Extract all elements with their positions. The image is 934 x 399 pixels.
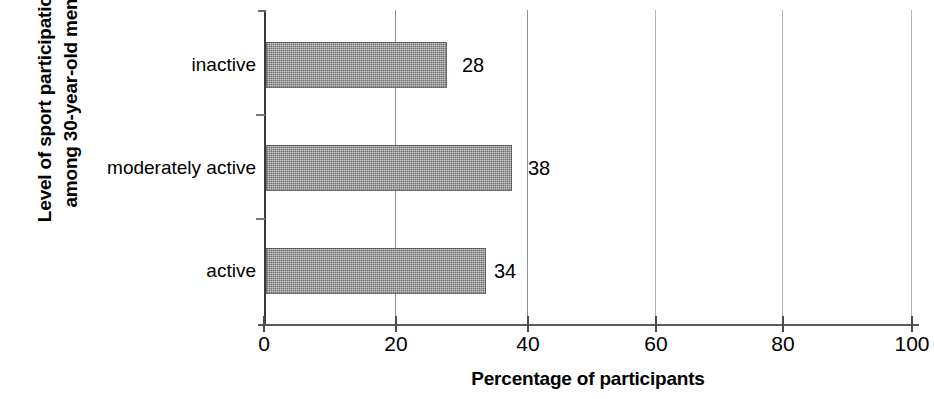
bar-moderately-active[interactable] — [266, 145, 512, 191]
y-axis-tick-2 — [256, 218, 265, 220]
gridline-60 — [655, 10, 656, 325]
x-axis-line — [258, 324, 919, 326]
bar-inactive[interactable] — [266, 42, 447, 88]
category-label-moderately-active: moderately active — [107, 157, 256, 179]
x-tick-label-80: 80 — [753, 332, 813, 356]
x-tick-label-20: 20 — [366, 332, 426, 356]
gridline-100 — [911, 10, 912, 325]
x-tick-label-40: 40 — [498, 332, 558, 356]
x-axis-tick-20 — [395, 316, 397, 332]
x-axis-title: Percentage of participants — [264, 368, 912, 390]
y-axis-title-line-2: among 30-year-old men — [58, 0, 84, 263]
x-axis-tick-40 — [527, 316, 529, 332]
value-label-inactive: 28 — [462, 53, 484, 77]
x-tick-label-0: 0 — [234, 332, 294, 356]
category-label-inactive: inactive — [192, 54, 256, 76]
value-label-active: 34 — [494, 259, 516, 283]
x-axis-tick-0 — [263, 316, 265, 332]
y-axis-top-cap — [258, 10, 266, 12]
y-axis-title: Level of sport participation among 30-ye… — [32, 0, 88, 263]
x-axis-tick-60 — [655, 316, 657, 332]
x-tick-label-100: 100 — [882, 332, 934, 356]
x-axis-tick-100 — [911, 316, 913, 332]
y-axis-title-line-1: Level of sport participation — [32, 0, 58, 263]
category-label-active: active — [206, 260, 256, 282]
value-label-moderately-active: 38 — [528, 156, 550, 180]
gridline-80 — [782, 10, 783, 325]
x-axis-tick-80 — [782, 316, 784, 332]
x-tick-label-60: 60 — [626, 332, 686, 356]
y-axis-tick-1 — [256, 114, 265, 116]
bar-active[interactable] — [266, 248, 486, 294]
